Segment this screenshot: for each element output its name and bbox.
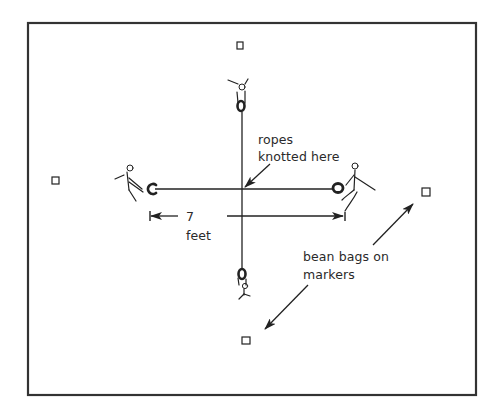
marker-right-pointer-arrow bbox=[373, 204, 413, 245]
player-right-stick-figure-icon bbox=[333, 163, 375, 211]
player-left-stick-figure-icon bbox=[115, 165, 156, 201]
marker-bottom-pointer-arrow bbox=[265, 285, 308, 329]
distance-unit-label: feet bbox=[186, 227, 211, 244]
ropes bbox=[155, 112, 333, 268]
player-top-stick-figure-icon bbox=[228, 79, 248, 111]
player-bottom-stick-figure-icon bbox=[238, 269, 250, 299]
knot-pointer-arrow bbox=[245, 164, 270, 187]
knot-label-line1: ropes bbox=[258, 131, 293, 148]
marker-top-square-icon bbox=[237, 42, 243, 49]
rope-formation-diagram bbox=[0, 0, 502, 412]
distance-value-label: 7 bbox=[186, 208, 194, 225]
markers bbox=[52, 42, 430, 344]
knot-label-line2: knotted here bbox=[258, 148, 340, 165]
marker-left-square-icon bbox=[52, 177, 59, 184]
markers-label-line2: markers bbox=[303, 266, 355, 283]
markers-label-line1: bean bags on bbox=[303, 248, 389, 265]
marker-right-square-icon bbox=[422, 188, 430, 196]
distance-dimension bbox=[150, 211, 345, 221]
marker-bottom-square-icon bbox=[242, 337, 250, 344]
